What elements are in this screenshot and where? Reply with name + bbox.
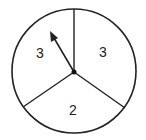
section-label-upper-left: 3 (36, 45, 44, 61)
center-pivot (72, 70, 77, 75)
section-label-upper-right: 3 (99, 44, 107, 60)
section-label-bottom: 2 (69, 102, 77, 118)
spinner-diagram: 3 3 2 (0, 0, 146, 140)
